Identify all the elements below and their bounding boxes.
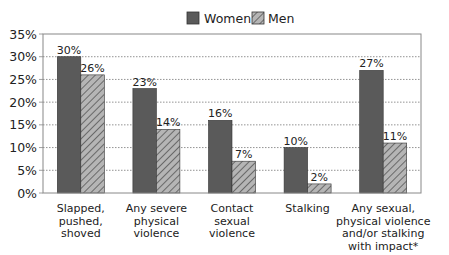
data-label: 16% xyxy=(208,107,232,120)
data-label: 14% xyxy=(156,116,180,129)
bar-women xyxy=(57,57,81,193)
y-tick-label: 25% xyxy=(9,72,37,87)
bar-women xyxy=(360,70,384,193)
legend-label-men: Men xyxy=(268,11,294,26)
bar-women xyxy=(284,148,308,193)
x-category-label: and/or stalking xyxy=(342,227,424,240)
x-category-label: Stalking xyxy=(285,202,329,215)
x-category-label: shoved xyxy=(61,227,101,240)
data-label: 2% xyxy=(311,171,328,184)
data-label: 10% xyxy=(284,135,308,148)
legend: Women Men xyxy=(187,11,294,26)
x-category-label: violence xyxy=(209,227,255,240)
bar-chart: Women Men 0%5%10%15%20%25%30%35% 30%26%2… xyxy=(0,0,449,255)
y-tick-label: 20% xyxy=(9,95,37,110)
y-tick-label: 10% xyxy=(9,140,37,155)
bar-women xyxy=(133,89,157,193)
data-label: 30% xyxy=(57,44,81,57)
y-tick-label: 30% xyxy=(9,49,37,64)
bar-men xyxy=(232,161,256,193)
y-tick-label: 15% xyxy=(9,117,37,132)
x-category-label: violence xyxy=(133,227,179,240)
x-category-label: pushed, xyxy=(59,215,103,228)
x-category-label: Any severe xyxy=(126,202,188,215)
x-category-label: Any sexual, xyxy=(351,202,415,215)
y-axis: 0%5%10%15%20%25%30%35% xyxy=(9,27,43,201)
x-category-label: sexual xyxy=(214,215,250,228)
data-label: 27% xyxy=(359,57,383,70)
legend-label-women: Women xyxy=(204,11,251,26)
y-tick-label: 35% xyxy=(9,27,37,42)
y-tick-label: 0% xyxy=(17,186,37,201)
x-category-label: Contact xyxy=(211,202,254,215)
data-label: 11% xyxy=(383,130,407,143)
data-label: 7% xyxy=(235,148,252,161)
bar-men xyxy=(383,143,407,193)
x-category-label: physical violence xyxy=(336,215,431,228)
bar-women xyxy=(209,120,233,193)
x-category-label: physical xyxy=(134,215,179,228)
bar-men xyxy=(308,184,332,193)
bar-men xyxy=(81,75,105,193)
legend-swatch-women xyxy=(187,12,199,24)
bar-men xyxy=(156,129,180,193)
x-axis-categories: Slapped,pushed,shovedAny severephysicalv… xyxy=(57,202,431,253)
data-label: 23% xyxy=(132,76,156,89)
data-label: 26% xyxy=(80,62,104,75)
x-category-label: Slapped, xyxy=(57,202,105,215)
y-tick-label: 5% xyxy=(17,163,37,178)
legend-swatch-men xyxy=(252,12,264,24)
x-category-label: with impact* xyxy=(348,240,419,253)
